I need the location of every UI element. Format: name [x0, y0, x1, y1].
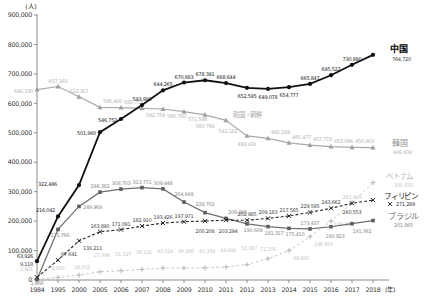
- x-tick-label: 2014: [281, 286, 296, 293]
- data-label-brazil: 228,702: [196, 201, 215, 207]
- data-label-china: 593,993: [133, 96, 152, 102]
- x-tick-label: 2006: [113, 286, 128, 293]
- data-label-philippines: 200,208: [196, 228, 215, 234]
- data-label-china: 678,391: [196, 71, 215, 77]
- x-marker: [77, 239, 81, 243]
- circle-marker: [350, 63, 354, 67]
- y-tick-label: 700,000: [8, 70, 33, 77]
- square-marker: [308, 227, 312, 231]
- data-label-philippines: 67,641: [61, 251, 77, 257]
- data-label-korea: 646,330: [14, 88, 33, 94]
- data-label-china: 665,847: [301, 75, 320, 81]
- x-tick-label: 2000: [71, 286, 86, 293]
- x-tick-label: 2010: [197, 286, 212, 293]
- plus-marker: [77, 273, 82, 278]
- plus-marker: [140, 267, 145, 272]
- data-label-vietnam: 8,680: [51, 265, 64, 271]
- square-marker: [371, 219, 375, 223]
- data-label-vietnam: 52,367: [241, 245, 257, 251]
- data-label-philippines: 202,985: [238, 211, 257, 217]
- y-tick-label: 800,000: [8, 41, 33, 48]
- square-marker: [266, 225, 270, 229]
- circle-marker: [140, 103, 144, 107]
- data-label-vietnam: 146,956: [314, 241, 333, 247]
- data-label-philippines: 182,910: [133, 217, 152, 223]
- data-label-korea: 580,760: [167, 113, 186, 119]
- data-label-china: 652,595: [238, 93, 257, 99]
- plus-marker: [224, 264, 229, 269]
- plus-marker: [266, 256, 271, 261]
- data-label-china: 670,683: [175, 74, 194, 80]
- value-vietnam-2018: 330,835: [394, 182, 413, 188]
- data-label-china: 322,486: [38, 181, 57, 187]
- circle-marker: [308, 82, 312, 86]
- x-tick-label: 2017: [344, 286, 359, 293]
- x-tick-label: 2007: [134, 286, 149, 293]
- data-label-vietnam: 262,405: [343, 194, 362, 200]
- circle-marker: [245, 86, 249, 90]
- triangle-marker: [56, 84, 61, 89]
- label-brazil: ブラジル: [388, 211, 419, 221]
- data-label-china: 501,960: [77, 130, 96, 136]
- x-tick-label: 2011: [218, 286, 233, 293]
- data-label-china: 216,042: [36, 207, 55, 213]
- data-label-brazil: 181,317: [265, 230, 284, 236]
- population-line-chart: (人)0100,000200,000300,000400,000500,0006…: [0, 0, 425, 306]
- x-tick-label: 2015: [302, 286, 317, 293]
- value-philippines-2018: 271,289: [396, 201, 415, 207]
- x-tick-label: 2009: [176, 286, 191, 293]
- data-label-korea: 622,307: [70, 88, 89, 94]
- circle-marker: [182, 80, 186, 84]
- label-vietnam: ベトナム: [386, 172, 413, 181]
- data-label-china: 546,752: [98, 117, 117, 123]
- chart-container: (人)0100,000200,000300,000400,000500,0006…: [0, 0, 425, 306]
- data-label-philippines: 243,662: [322, 199, 341, 205]
- data-label-china: 695,522: [322, 66, 341, 72]
- data-label-philippines: 217,585: [280, 207, 299, 213]
- circle-marker: [98, 130, 102, 134]
- data-label-vietnam: 40,524: [157, 248, 173, 254]
- x-tick-label: 2008: [155, 286, 170, 293]
- data-label-korea: 457,772: [313, 136, 332, 142]
- data-label-china: 644,265: [154, 81, 173, 87]
- data-label-china: 649,078: [259, 94, 278, 100]
- square-marker: [245, 222, 249, 226]
- y-tick-label: 600,000: [8, 100, 33, 107]
- data-label-brazil: 249,969: [83, 204, 102, 210]
- plus-marker: [308, 234, 313, 239]
- circle-marker: [119, 117, 123, 121]
- circle-marker: [203, 78, 207, 82]
- y-axis-unit-label: (人): [25, 3, 36, 11]
- value-china-2018: 764,720: [392, 56, 411, 62]
- label-philippines: フィリピン: [384, 192, 418, 201]
- square-marker: [140, 186, 144, 190]
- label-china: 中国: [390, 43, 408, 54]
- circle-marker: [35, 259, 39, 263]
- plus-marker: [182, 266, 187, 271]
- data-label-korea: 586,400: [103, 98, 122, 104]
- data-label-vietnam: 16,602: [74, 264, 90, 270]
- data-label-korea: 489,431: [238, 141, 257, 147]
- x-tick-label: 2018: [365, 286, 380, 293]
- data-label-brazil: 308,703: [112, 180, 131, 186]
- data-label-brazil: 175,410: [286, 231, 305, 237]
- y-tick-label: 500,000: [8, 129, 33, 136]
- circle-marker: [266, 87, 270, 91]
- data-label-china: 654,777: [280, 92, 299, 98]
- series-korea: 646,330657,160622,307586,400585,752582,7…: [14, 78, 375, 150]
- x-tick-label: 2013: [260, 286, 275, 293]
- data-label-korea: 481,249: [271, 129, 290, 135]
- data-label-brazil: 264,649: [175, 191, 194, 197]
- data-label-vietnam: 40,495: [178, 248, 194, 254]
- data-label-philippines: 9,118: [20, 261, 33, 267]
- x-tick-label: 2012: [239, 286, 254, 293]
- x-marker: [388, 202, 392, 206]
- data-label-korea: 582,754: [146, 112, 165, 118]
- data-label-china: 730,890: [343, 56, 362, 62]
- y-tick-label: 900,000: [8, 11, 33, 18]
- data-label-vietnam: 41,354: [199, 248, 215, 254]
- data-label-vietnam: 72,256: [260, 246, 276, 252]
- data-label-china: 63,926: [17, 253, 33, 259]
- data-label-korea: 465,477: [292, 134, 311, 140]
- circle-marker: [161, 88, 165, 92]
